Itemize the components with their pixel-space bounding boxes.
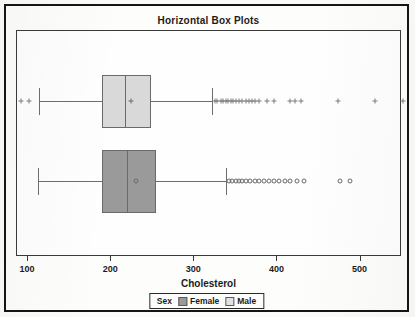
plot-frame bbox=[16, 30, 401, 256]
outlier-male bbox=[293, 99, 298, 104]
legend: Sex Female Male bbox=[149, 293, 264, 309]
outer-frame: Horizontal Box Plots 100200300400500 Cho… bbox=[4, 4, 409, 312]
chart-title: Horizontal Box Plots bbox=[6, 15, 411, 26]
box-male bbox=[102, 75, 150, 128]
outlier-female bbox=[282, 179, 287, 184]
outlier-male bbox=[265, 99, 270, 104]
legend-label-male: Male bbox=[237, 296, 256, 306]
legend-entry-male[interactable]: Male bbox=[225, 296, 256, 306]
median-female bbox=[127, 150, 128, 213]
outlier-female bbox=[348, 179, 353, 184]
outlier-female bbox=[338, 179, 343, 184]
whisker-high-male bbox=[151, 101, 213, 102]
outlier-male bbox=[299, 99, 304, 104]
x-axis-line bbox=[16, 255, 401, 256]
outlier-male bbox=[335, 99, 340, 104]
outlier-male bbox=[401, 99, 406, 104]
legend-title: Sex bbox=[157, 296, 172, 306]
x-tick-label-300: 300 bbox=[186, 264, 201, 274]
x-tick-label-200: 200 bbox=[103, 264, 118, 274]
x-tick-200 bbox=[110, 255, 111, 261]
median-male bbox=[125, 75, 126, 128]
plot-canvas bbox=[17, 31, 400, 255]
outlier-female bbox=[276, 179, 281, 184]
x-tick-500 bbox=[360, 255, 361, 261]
x-tick-100 bbox=[27, 255, 28, 261]
outlier-male bbox=[19, 99, 24, 104]
legend-label-female: Female bbox=[190, 296, 219, 306]
legend-swatch-female-icon bbox=[178, 297, 187, 306]
mean-marker-female bbox=[133, 179, 138, 184]
legend-swatch-male-icon bbox=[225, 297, 234, 306]
outlier-male bbox=[27, 99, 32, 104]
x-tick-300 bbox=[193, 255, 194, 261]
x-tick-label-500: 500 bbox=[352, 264, 367, 274]
outlier-female bbox=[288, 179, 293, 184]
outlier-male bbox=[256, 99, 261, 104]
cap-low-male bbox=[39, 88, 40, 115]
x-tick-label-100: 100 bbox=[19, 264, 34, 274]
box-female bbox=[102, 150, 155, 213]
x-tick-label-400: 400 bbox=[269, 264, 284, 274]
outlier-male bbox=[373, 99, 378, 104]
cap-low-female bbox=[38, 168, 39, 195]
mean-marker-male bbox=[128, 99, 133, 104]
whisker-low-female bbox=[38, 181, 102, 182]
whisker-low-male bbox=[39, 101, 102, 102]
outlier-female bbox=[295, 179, 300, 184]
legend-entry-female[interactable]: Female bbox=[178, 296, 219, 306]
x-axis-label: Cholesterol bbox=[6, 278, 411, 289]
x-tick-400 bbox=[276, 255, 277, 261]
screenshot-page: Horizontal Box Plots 100200300400500 Cho… bbox=[0, 0, 415, 317]
whisker-high-female bbox=[156, 181, 227, 182]
outlier-male bbox=[271, 99, 276, 104]
outlier-male bbox=[287, 99, 292, 104]
outlier-female bbox=[301, 179, 306, 184]
